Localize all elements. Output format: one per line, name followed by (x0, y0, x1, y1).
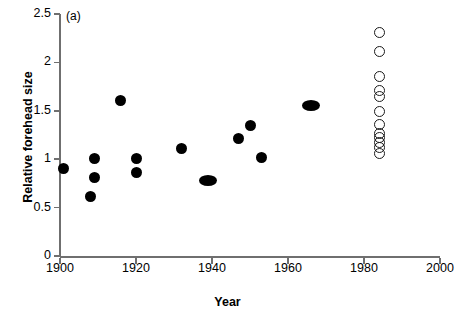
data-point-filled-0-3 (85, 191, 96, 202)
panel-label: (a) (66, 9, 81, 23)
y-tick-label-2: 1 (17, 151, 51, 165)
x-axis-title: Year (0, 295, 455, 309)
x-tick-label-5: 2000 (410, 261, 455, 275)
data-point-open-1-11 (374, 148, 385, 159)
data-point-filled-0-1 (89, 153, 100, 164)
x-axis-line (60, 256, 440, 258)
x-tick-label-2: 1940 (182, 261, 242, 275)
data-point-open-1-2 (374, 71, 385, 82)
y-tick-mark-4 (54, 62, 60, 64)
y-tick-mark-5 (54, 13, 60, 15)
x-tick-label-4: 1980 (334, 261, 394, 275)
data-point-filled-0-2 (89, 172, 100, 183)
figure-panel-a: (a) Relative forehead size Year 00.511.5… (0, 0, 455, 328)
y-axis-line (59, 14, 61, 256)
data-point-filled-0-9 (233, 133, 244, 144)
y-tick-mark-0 (54, 255, 60, 257)
data-point-filled-0-6 (131, 167, 142, 178)
y-tick-label-5: 2.5 (17, 6, 51, 20)
y-tick-label-3: 1.5 (17, 103, 51, 117)
y-tick-label-0: 0 (17, 248, 51, 262)
y-tick-label-4: 2 (17, 54, 51, 68)
data-point-filled-0-10 (245, 120, 256, 131)
data-point-filled-0-4 (115, 95, 126, 106)
data-point-open-1-5 (374, 106, 385, 117)
y-tick-mark-2 (54, 158, 60, 160)
x-tick-label-1: 1920 (106, 261, 166, 275)
data-point-filled-0-0 (58, 163, 69, 174)
data-point-filled-0-7 (176, 143, 187, 154)
data-point-open-1-0 (374, 27, 385, 38)
y-tick-mark-1 (54, 207, 60, 209)
y-tick-mark-3 (54, 110, 60, 112)
data-point-filled-0-11 (256, 152, 267, 163)
y-tick-label-1: 0.5 (17, 200, 51, 214)
data-point-filled-0-8 (199, 175, 217, 186)
data-point-open-1-1 (374, 46, 385, 57)
x-tick-label-0: 1900 (30, 261, 90, 275)
data-point-filled-0-5 (131, 153, 142, 164)
data-point-open-1-4 (374, 91, 385, 102)
x-tick-label-3: 1960 (258, 261, 318, 275)
data-point-filled-0-12 (302, 100, 320, 111)
